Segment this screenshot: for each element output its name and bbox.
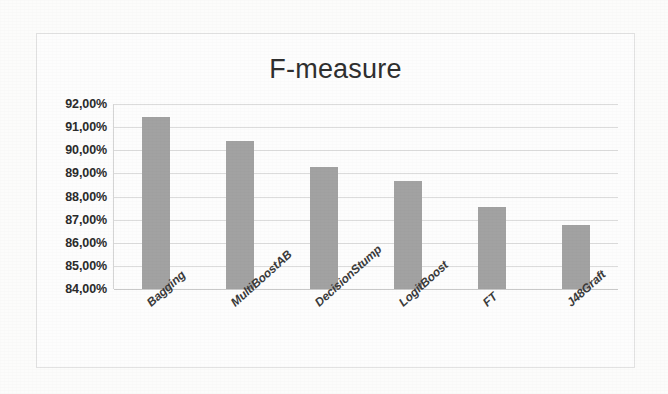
bar — [478, 207, 506, 289]
y-axis-tick-label: 84,00% — [65, 282, 107, 296]
gridline — [114, 150, 618, 151]
y-axis-tick-label: 90,00% — [65, 143, 107, 157]
gridline — [114, 289, 618, 290]
y-axis-tick-label: 85,00% — [65, 259, 107, 273]
bar — [226, 141, 254, 289]
gridline — [114, 197, 618, 198]
bar — [142, 117, 170, 289]
plot-area: 92,00%91,00%90,00%89,00%88,00%87,00%86,0… — [114, 104, 618, 289]
bar — [394, 181, 422, 289]
y-axis-tick-label: 88,00% — [65, 190, 107, 204]
gridline — [114, 104, 618, 105]
y-axis-tick-label: 91,00% — [65, 120, 107, 134]
chart-title: F-measure — [37, 54, 634, 85]
y-axis-tick-label: 87,00% — [65, 213, 107, 227]
gridline — [114, 127, 618, 128]
gridline — [114, 220, 618, 221]
scanned-page: F-measure 92,00%91,00%90,00%89,00%88,00%… — [0, 0, 668, 394]
chart-frame: F-measure 92,00%91,00%90,00%89,00%88,00%… — [36, 33, 635, 368]
y-axis-tick-label: 89,00% — [65, 166, 107, 180]
x-axis-tick-label: FT — [480, 289, 500, 309]
gridline — [114, 243, 618, 244]
y-axis-tick-label: 92,00% — [65, 97, 107, 111]
y-axis-tick-label: 86,00% — [65, 236, 107, 250]
gridline — [114, 173, 618, 174]
bar — [310, 167, 338, 289]
